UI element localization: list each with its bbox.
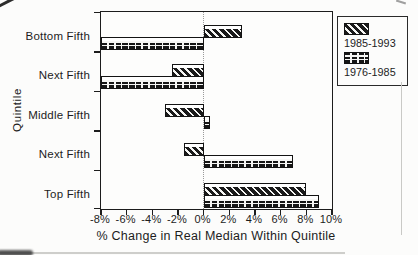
bar-1985-1993-next-fifth-row3 <box>184 143 203 156</box>
bar-1976-1985-next-fifth-row1 <box>101 76 204 89</box>
scan-artifact-bottom-left <box>0 250 33 255</box>
x-tick-label-10: 10% <box>315 213 347 225</box>
figure: Quintile Bottom FifthNext FifthMiddle Fi… <box>0 0 418 255</box>
bar-1976-1985-middle-fifth-row2 <box>204 116 210 129</box>
legend-swatch-hatch-icon <box>344 23 369 35</box>
scan-artifact-bottom-edge <box>0 252 345 254</box>
bar-fill-brick <box>102 80 203 88</box>
bar-fill-hatch <box>166 108 203 116</box>
category-label-row3: Next Fifth <box>0 146 90 162</box>
bar-fill-hatch <box>185 147 202 155</box>
bar-fill-hatch <box>173 68 203 76</box>
bar-1976-1985-bottom-fifth-row0 <box>101 37 204 50</box>
scan-artifact-top-right <box>396 0 406 4</box>
category-labels: Bottom FifthNext FifthMiddle FifthNext F… <box>0 11 95 208</box>
legend-swatch-brick-icon <box>344 52 369 64</box>
category-label-row2: Middle Fifth <box>0 107 90 123</box>
bar-fill-brick <box>205 120 209 128</box>
category-label-row0: Bottom Fifth <box>0 28 90 44</box>
scan-artifact-right-edge <box>401 82 402 235</box>
category-label-row4: Top Fifth <box>0 186 90 202</box>
bar-1976-1985-next-fifth-row3 <box>204 155 294 168</box>
category-label-row1: Next Fifth <box>0 67 90 83</box>
bar-fill-hatch <box>205 187 306 195</box>
scan-artifact-top-left <box>0 0 15 8</box>
legend-label-1976-1985: 1976-1985 <box>344 65 401 79</box>
legend: 1985-19931976-1985 <box>337 16 408 86</box>
bar-fill-brick <box>205 199 319 207</box>
bar-1985-1993-middle-fifth-row2 <box>165 104 204 117</box>
legend-label-1985-1993: 1985-1993 <box>344 36 401 50</box>
bar-1985-1993-bottom-fifth-row0 <box>204 25 243 38</box>
x-axis-title: % Change in Real Median Within Quintile <box>66 229 366 243</box>
bar-1976-1985-top-fifth-row4 <box>204 195 320 208</box>
x-tick-labels: -8%-6%-4%-2%0%2%4%6%8%10% <box>100 213 331 227</box>
plot-area <box>100 11 333 210</box>
bar-fill-hatch <box>205 29 242 37</box>
bar-fill-brick <box>205 159 293 167</box>
bar-fill-brick <box>102 41 203 49</box>
